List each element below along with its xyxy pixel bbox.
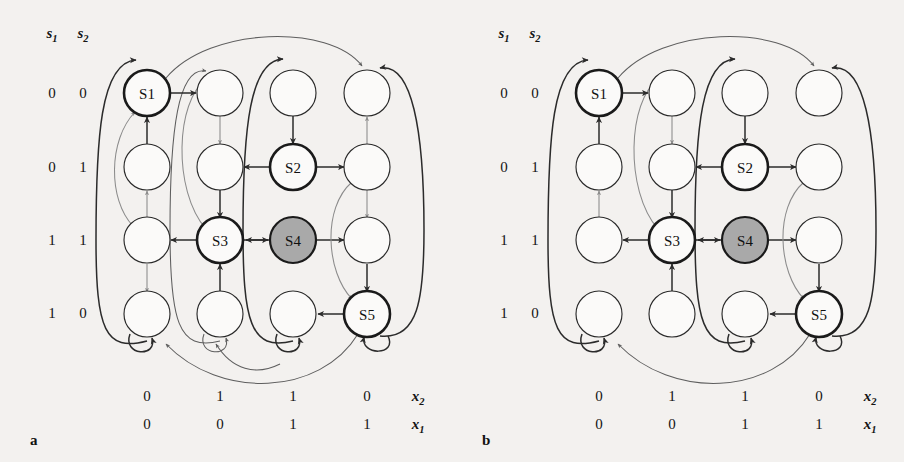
row-label-b-1-s1: 0 <box>500 159 508 175</box>
node-c4r3[interactable] <box>344 217 390 263</box>
row-label-1-s1: 0 <box>48 159 56 175</box>
col-axis-b-x2: x2 <box>863 388 878 407</box>
col-label-b-x1-3: 1 <box>815 416 823 432</box>
row-label-b-0-s2: 0 <box>531 85 539 101</box>
col-label-x2-2: 1 <box>289 388 297 404</box>
node-c4r1[interactable] <box>344 70 390 116</box>
node-b-c4r2[interactable] <box>796 144 842 190</box>
row-label-b-3-s1: 1 <box>500 305 508 321</box>
node-b-s3-label: S3 <box>664 233 680 249</box>
col-label-x1-0: 0 <box>143 416 151 432</box>
row-label-2-s2: 1 <box>79 232 87 248</box>
col-label-x2-1: 1 <box>216 388 224 404</box>
node-c2r4[interactable] <box>197 291 243 337</box>
node-b-s2-label: S2 <box>737 160 753 176</box>
col-labels-panel-a: 0 1 1 0 x2 0 0 1 1 x1 <box>143 388 425 435</box>
node-b-c2r1[interactable] <box>649 70 695 116</box>
col-label-b-x2-0: 0 <box>595 388 603 404</box>
row-label-b-3-s2: 0 <box>531 305 539 321</box>
node-b-s4-label: S4 <box>737 233 753 249</box>
node-c1r3[interactable] <box>124 217 170 263</box>
node-b-c4r3[interactable] <box>796 217 842 263</box>
row-label-b-2-s2: 1 <box>531 232 539 248</box>
row-label-2-s1: 1 <box>48 232 56 248</box>
node-b-c1r2[interactable] <box>576 144 622 190</box>
node-s3-label: S3 <box>212 233 228 249</box>
col-label-b-x1-1: 0 <box>668 416 676 432</box>
edge-b-s1-to-c4r1-toparc <box>618 37 814 78</box>
node-b-c2r2[interactable] <box>649 144 695 190</box>
node-c3r4[interactable] <box>270 291 316 337</box>
col-label-b-x2-1: 1 <box>668 388 676 404</box>
row-axis-header-b: s1 s2 <box>497 25 541 44</box>
edge-bottom-to-c2r4-arc <box>216 344 280 370</box>
row-axis-header: s1 s2 <box>45 25 89 44</box>
row-axis-s2-b: s2 <box>528 25 541 44</box>
edge-b-s5-to-c1r4-bottomarc <box>618 334 810 383</box>
col-label-b-x2-3: 0 <box>815 388 823 404</box>
panel-a: s1 s2 0 0 0 1 1 1 1 0 <box>0 0 452 462</box>
node-c2r1[interactable] <box>197 70 243 116</box>
row-label-0-s1: 0 <box>48 85 56 101</box>
node-b-c4r1[interactable] <box>796 70 842 116</box>
node-b-s1-label: S1 <box>591 86 607 102</box>
row-label-3-s1: 1 <box>48 305 56 321</box>
edge-s5-to-c4r1-arc <box>380 68 424 337</box>
col-label-x2-3: 0 <box>363 388 371 404</box>
row-labels-b: 0 0 0 1 1 1 1 0 <box>500 85 539 321</box>
col-label-b-x2-2: 1 <box>741 388 749 404</box>
node-b-s5-label: S5 <box>811 307 827 323</box>
panel-tag-a: a <box>30 432 38 448</box>
node-s5-label: S5 <box>359 307 375 323</box>
node-b-c2r4[interactable] <box>649 291 695 337</box>
col-labels-panel-b: 0 1 1 0 x2 0 0 1 1 x1 <box>595 388 877 435</box>
node-b-c3r1[interactable] <box>722 70 768 116</box>
node-c3r1[interactable] <box>270 70 316 116</box>
nodes-panel-b: S1 S2 S3 S4 S5 <box>576 70 842 337</box>
node-s4-label: S4 <box>285 233 301 249</box>
figure-root: s1 s2 0 0 0 1 1 1 1 0 <box>0 0 904 462</box>
panel-b: s1 s2 0 0 0 1 1 1 1 0 <box>452 0 904 462</box>
row-axis-s1-b: s1 <box>497 25 509 44</box>
node-b-c3r4[interactable] <box>722 291 768 337</box>
col-label-x1-2: 1 <box>289 416 297 432</box>
node-c1r4[interactable] <box>124 291 170 337</box>
edge-s1-to-c4r1-toparc <box>166 37 362 78</box>
edge-b-s5-to-c4r1-arc <box>832 68 876 337</box>
node-c2r2[interactable] <box>197 144 243 190</box>
row-label-b-0-s1: 0 <box>500 85 508 101</box>
col-label-x1-3: 1 <box>363 416 371 432</box>
row-label-b-2-s1: 1 <box>500 232 508 248</box>
row-label-3-s2: 0 <box>79 305 87 321</box>
row-axis-s1: s1 <box>45 25 57 44</box>
panel-tag-b: b <box>482 432 490 448</box>
row-label-0-s2: 0 <box>79 85 87 101</box>
col-label-b-x1-2: 1 <box>741 416 749 432</box>
col-axis-x1: x1 <box>411 416 425 435</box>
node-s2-label: S2 <box>285 160 301 176</box>
col-axis-b-x1: x1 <box>863 416 877 435</box>
col-axis-x2: x2 <box>411 388 426 407</box>
col-label-x2-0: 0 <box>143 388 151 404</box>
node-b-c1r4[interactable] <box>576 291 622 337</box>
row-labels: 0 0 0 1 1 1 1 0 <box>48 85 87 321</box>
node-s1-label: S1 <box>139 86 155 102</box>
col-label-x1-1: 0 <box>216 416 224 432</box>
row-axis-s2: s2 <box>76 25 89 44</box>
node-c4r2[interactable] <box>344 144 390 190</box>
row-label-b-1-s2: 1 <box>531 159 539 175</box>
node-c1r2[interactable] <box>124 144 170 190</box>
col-label-b-x1-0: 0 <box>595 416 603 432</box>
row-label-1-s2: 1 <box>79 159 87 175</box>
nodes-panel-a: S1 S2 S3 S4 <box>124 70 390 337</box>
node-b-c1r3[interactable] <box>576 217 622 263</box>
